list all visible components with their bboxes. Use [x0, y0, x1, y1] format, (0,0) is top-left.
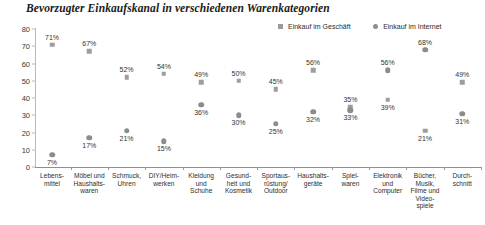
value-label-store: 71%: [45, 34, 59, 41]
x-axis-line: [35, 167, 482, 168]
y-tick-mark: [32, 46, 35, 47]
chart-page: Bevorzugter Einkaufskanal in verschieden…: [0, 0, 485, 225]
value-label-internet: 30%: [231, 119, 245, 126]
data-point-internet: [124, 128, 130, 134]
x-tick-mark: [406, 167, 407, 170]
x-tick-mark: [183, 167, 184, 170]
x-category-label: Bücher,Musik,Filme undVideo-spiele: [405, 172, 445, 210]
x-category-label: Haushalts-geräte: [293, 172, 333, 187]
data-point-store: [274, 87, 279, 92]
value-label-store: 35%: [343, 96, 357, 103]
data-point-internet: [385, 68, 391, 74]
legend-item-internet: Einkauf im Internet: [373, 23, 442, 30]
value-label-internet: 31%: [455, 118, 469, 125]
data-point-store: [385, 97, 390, 102]
x-category-label: Sportaus-rüstung/Outdoor: [256, 172, 296, 195]
value-label-store: 50%: [231, 70, 245, 77]
value-label-store: 56%: [306, 59, 320, 66]
data-point-store: [50, 42, 55, 47]
value-label-store: 52%: [120, 66, 134, 73]
page-title: Bevorzugter Einkaufskanal in verschieden…: [26, 2, 330, 14]
y-tick-label: 10: [0, 145, 30, 154]
x-category-label: Gesund-heit undKosmetik: [219, 172, 259, 195]
value-label-store: 54%: [157, 63, 171, 70]
data-point-internet: [422, 47, 428, 53]
value-label-internet: 33%: [343, 114, 357, 121]
value-label-internet: 15%: [157, 145, 171, 152]
data-point-internet: [198, 102, 204, 108]
y-tick-mark: [32, 63, 35, 64]
value-label-internet: 17%: [82, 142, 96, 149]
x-category-label: Durch-schnitt: [442, 172, 482, 187]
x-category-label: ElektronikundComputer: [368, 172, 408, 195]
value-label-internet: 21%: [120, 135, 134, 142]
data-point-internet: [87, 135, 93, 141]
data-point-store: [87, 49, 92, 54]
y-tick-mark: [32, 132, 35, 133]
legend-label-internet: Einkauf im Internet: [383, 23, 441, 30]
x-category-label: Spiel-waren: [330, 172, 370, 187]
x-category-label: Schmuck,Uhren: [107, 172, 147, 187]
y-axis-line: [35, 28, 36, 168]
y-tick-mark: [32, 80, 35, 81]
x-tick-mark: [108, 167, 109, 170]
x-category-label: DIY/Heim-werken: [144, 172, 184, 187]
data-point-store: [311, 68, 316, 73]
y-tick-mark: [32, 98, 35, 99]
value-label-store: 45%: [269, 78, 283, 85]
square-marker-icon: [278, 24, 283, 29]
x-tick-mark: [294, 167, 295, 170]
value-label-store: 39%: [381, 104, 395, 111]
x-category-label: Möbel undHaushalts-waren: [69, 172, 109, 195]
x-tick-mark: [369, 167, 370, 170]
value-label-store: 49%: [455, 71, 469, 78]
y-tick-label: 80: [0, 25, 30, 34]
legend-label-store: Einkauf im Geschäft: [288, 23, 351, 30]
y-tick-label: 20: [0, 128, 30, 137]
data-point-store: [162, 72, 167, 77]
data-point-store: [124, 75, 129, 80]
value-label-store: 21%: [418, 135, 432, 142]
y-tick-mark: [32, 115, 35, 116]
y-tick-mark: [32, 149, 35, 150]
y-tick-label: 70: [0, 42, 30, 51]
y-tick-label: 30: [0, 111, 30, 120]
x-tick-mark: [332, 167, 333, 170]
value-label-internet: 32%: [306, 116, 320, 123]
y-tick-label: 40: [0, 94, 30, 103]
y-tick-label: 50: [0, 76, 30, 85]
data-point-store: [199, 80, 204, 85]
data-point-store: [460, 80, 465, 85]
data-point-store: [423, 129, 428, 134]
data-point-store: [236, 79, 241, 84]
legend-item-store: Einkauf im Geschäft: [278, 23, 351, 30]
x-tick-mark: [444, 167, 445, 170]
data-point-internet: [273, 121, 279, 127]
value-label-store: 67%: [82, 40, 96, 47]
data-point-internet: [161, 138, 167, 144]
circle-marker-icon: [373, 24, 379, 30]
data-point-internet: [49, 152, 55, 158]
data-point-internet: [348, 107, 354, 113]
value-label-internet: 68%: [418, 39, 432, 46]
x-category-label: KleidungundSchuhe: [181, 172, 221, 195]
value-label-store: 49%: [194, 71, 208, 78]
data-point-internet: [236, 113, 242, 119]
x-tick-mark: [145, 167, 146, 170]
y-tick-mark: [32, 167, 35, 168]
x-tick-mark: [257, 167, 258, 170]
value-label-internet: 56%: [381, 59, 395, 66]
y-tick-label: 60: [0, 59, 30, 68]
value-label-internet: 7%: [47, 159, 57, 166]
chart-legend: Einkauf im Geschäft Einkauf im Internet: [278, 23, 442, 30]
x-category-label: Lebens-mittel: [32, 172, 72, 187]
y-tick-label: 0: [0, 163, 30, 172]
value-label-internet: 36%: [194, 109, 208, 116]
x-tick-mark: [220, 167, 221, 170]
value-label-internet: 25%: [269, 128, 283, 135]
x-tick-mark: [481, 167, 482, 170]
data-point-internet: [460, 111, 466, 117]
data-point-internet: [310, 109, 316, 115]
y-tick-mark: [32, 29, 35, 30]
x-tick-mark: [71, 167, 72, 170]
